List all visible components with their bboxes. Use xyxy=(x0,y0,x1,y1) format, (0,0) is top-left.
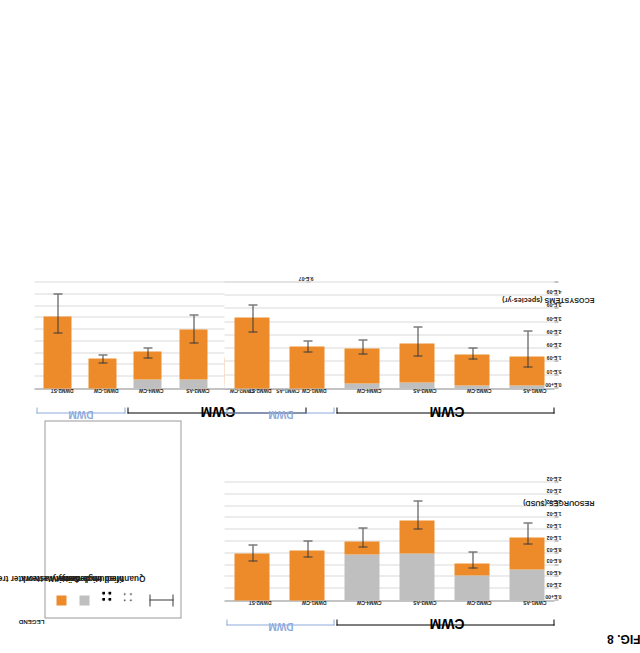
gridline xyxy=(224,493,554,494)
axis-tick-label: 1.E-02 xyxy=(546,522,561,528)
error-bar-cap xyxy=(413,500,422,501)
error-bar xyxy=(307,541,308,557)
category-label-cwm4-cw: CWM4-CW xyxy=(356,599,381,604)
axis-tick xyxy=(554,516,558,517)
gridline xyxy=(224,552,554,553)
figure-label: FIG. 8 xyxy=(607,631,640,645)
gridline xyxy=(224,528,554,529)
axis-tick xyxy=(554,564,558,565)
error-bar xyxy=(362,340,363,353)
axis-tick-label: 6.E-03 xyxy=(546,557,561,563)
category-label-cwm3-as: CWM3-AS xyxy=(185,387,208,392)
group-label-cwm: CWM xyxy=(429,615,464,631)
error-bar-cap xyxy=(143,357,152,358)
group-label-cwm: CWM xyxy=(429,403,464,419)
error-bar-cap xyxy=(523,522,532,523)
category-label-dwm1-cw: DWM1-CW xyxy=(93,387,118,392)
error-bar-cap xyxy=(413,528,422,529)
axis-tick xyxy=(554,361,558,362)
error-bar-cap xyxy=(248,560,257,561)
axis-tick-label: 8.E-03 xyxy=(546,546,561,552)
axis-tick-label: 5.E-10 xyxy=(546,368,561,374)
gridline xyxy=(224,481,554,482)
category-label-cwm3-as: CWM3-AS xyxy=(412,599,435,604)
error-bar-cap xyxy=(468,551,477,552)
gridline xyxy=(224,575,554,576)
category-label-cwm4-cw: CWM4-CW xyxy=(139,387,164,392)
axis-tick-label: 0.E+00 xyxy=(545,593,561,599)
category-label-cwm2-cw: CWM2-CW xyxy=(466,387,491,392)
axis-tick-label: 2.E-03 xyxy=(546,581,561,587)
chart-ecosystems: 0.E+005.E-101.E-092.E-092.E-093.E-093.E-… xyxy=(218,245,613,415)
error-bar-cap xyxy=(468,347,477,348)
axis-tick-label: 2.E-09 xyxy=(546,341,561,347)
error-bar xyxy=(252,545,253,562)
error-bar xyxy=(193,315,194,343)
error-bar-cap xyxy=(303,351,312,352)
error-bar-cap xyxy=(468,358,477,359)
axis-tick xyxy=(554,281,558,282)
error-bar-cap xyxy=(303,556,312,557)
plot-area xyxy=(224,483,554,601)
error-bar xyxy=(527,523,528,544)
gridline xyxy=(224,308,554,309)
bar-group xyxy=(454,283,488,388)
error-bar-cap xyxy=(53,332,62,333)
gridline xyxy=(224,334,554,335)
error-bar xyxy=(417,327,418,356)
error-bar-cap xyxy=(303,540,312,541)
legend-swatch-wwt xyxy=(56,595,66,605)
medium-density-pattern-icon xyxy=(123,589,135,601)
error-bar-cap xyxy=(53,293,62,294)
error-bar-cap xyxy=(358,339,367,340)
gridline xyxy=(224,587,554,588)
category-label-cwm2-cw: CWM2-CW xyxy=(466,599,491,604)
gridline xyxy=(224,374,554,375)
gridline xyxy=(224,540,554,541)
category-label-dwm2-st: DWM2-ST xyxy=(248,387,271,392)
high-density-pattern-icon xyxy=(101,589,113,601)
axis-title: RESOURCES ($USD) xyxy=(523,498,595,507)
error-bar-cap xyxy=(248,304,257,305)
gridline xyxy=(224,516,554,517)
bar-segment-sewer-network xyxy=(399,553,433,600)
gridline xyxy=(224,505,554,506)
bar-group xyxy=(234,483,268,600)
error-bar xyxy=(417,501,418,529)
error-bar xyxy=(252,305,253,333)
gridline xyxy=(224,564,554,565)
category-label-dwm2-st: DWM2-ST xyxy=(50,387,73,392)
group-label-dwm: DWM xyxy=(268,408,293,419)
axis-tick-label: 2.E-09 xyxy=(546,328,561,334)
error-bar-cap xyxy=(98,362,107,363)
axis-tick-label: 2.E-02 xyxy=(546,475,561,481)
axis-tick-label: 1.E-02 xyxy=(546,510,561,516)
legend-label-uncertainty: Quantified uncertainty xyxy=(57,573,145,583)
error-bar-cap xyxy=(358,353,367,354)
error-bar-icon xyxy=(149,594,173,606)
error-bar-cap xyxy=(413,355,422,356)
error-bar-cap xyxy=(358,527,367,528)
category-label-cwm1-as: CWM1-AS xyxy=(522,387,545,392)
bar-group xyxy=(88,283,116,388)
error-bar-cap xyxy=(523,366,532,367)
error-bar xyxy=(307,341,308,352)
error-bar xyxy=(362,528,363,547)
bar-group xyxy=(344,283,378,388)
error-bar-cap xyxy=(468,567,477,568)
axis-tick-label: 1.E-02 xyxy=(546,534,561,540)
bar-group xyxy=(289,283,323,388)
error-bar-cap xyxy=(248,331,257,332)
legend-swatch-sewer xyxy=(79,595,89,605)
bar-group xyxy=(234,283,268,388)
group-label-dwm: DWM xyxy=(268,620,293,631)
chart-resources: 0.E+002.E-034.E-036.E-038.E-031.E-021.E-… xyxy=(218,451,613,631)
axis-tick-label: 0.E+00 xyxy=(545,381,561,387)
axis-tick xyxy=(554,308,558,309)
group-label-dwm: DWM xyxy=(68,408,93,419)
error-bar-cap xyxy=(358,546,367,547)
bar-segment-sewer-network xyxy=(509,569,543,600)
category-label-cwm1-as: CWM1-AS xyxy=(522,599,545,604)
gridline xyxy=(224,347,554,348)
error-bar xyxy=(472,348,473,360)
